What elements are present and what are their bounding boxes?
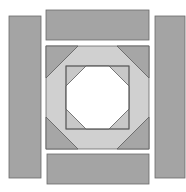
top-border-bar xyxy=(46,10,149,40)
left-border-strip xyxy=(9,16,41,178)
right-border-strip xyxy=(155,16,185,178)
quilt-block-diagram xyxy=(0,0,186,192)
bottom-border-bar xyxy=(47,154,149,184)
